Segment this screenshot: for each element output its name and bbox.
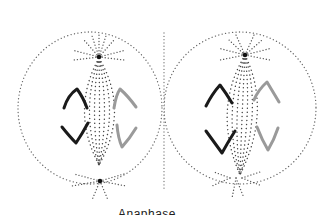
cell-division-diagram	[0, 0, 328, 215]
left-cell	[18, 32, 162, 200]
right-chromosomes-dark	[206, 85, 235, 153]
left-chromosomes-dark	[62, 89, 88, 143]
right-centrosome-top	[243, 53, 248, 58]
right-cell	[164, 32, 316, 198]
right-astral-rays-bottom	[212, 172, 262, 198]
right-spindle-fibers	[227, 55, 257, 175]
diagram-caption: Anaphase	[118, 207, 176, 215]
left-centrosome-bottom	[98, 179, 103, 184]
left-spindle-fibers	[85, 58, 115, 165]
right-chromosomes-light	[254, 82, 279, 150]
left-centrosome-top	[97, 55, 102, 60]
left-chromosomes-light	[114, 89, 136, 147]
